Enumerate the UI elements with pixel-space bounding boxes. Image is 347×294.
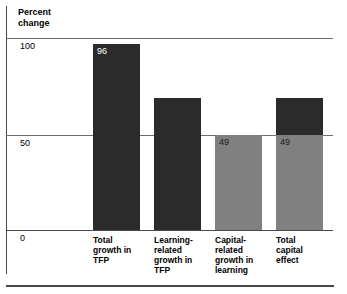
y-axis-title-line2: change bbox=[18, 18, 50, 28]
y-axis-title-line1: Percent bbox=[18, 7, 51, 17]
category-label-capital-related-growth-learning: Capital- related growth in learning bbox=[215, 235, 271, 275]
plot-area: 100 50 0 96 49 bbox=[6, 30, 334, 235]
bar-value-label: 96 bbox=[97, 46, 107, 56]
category-label-total-growth-tfp: Total growth in TFP bbox=[93, 235, 149, 265]
chart-figure: Percentchange 100 50 0 96 49 bbox=[0, 0, 347, 294]
bar-total-growth-tfp[interactable]: 96 bbox=[93, 44, 140, 230]
bar-learning-related-growth-tfp[interactable] bbox=[154, 98, 201, 230]
y-axis-title: Percentchange bbox=[18, 7, 51, 29]
figure-bottom-rule bbox=[6, 285, 334, 287]
bar-value-label: 49 bbox=[280, 137, 290, 147]
bar-segment-dark bbox=[154, 98, 201, 230]
bar-segment-dark bbox=[276, 98, 323, 135]
bar-segment-gray: 49 bbox=[215, 135, 262, 230]
bar-value-label: 49 bbox=[219, 137, 229, 147]
bars-layer: 96 49 49 bbox=[6, 30, 334, 235]
bar-segment-gray: 49 bbox=[276, 135, 323, 230]
category-label-learning-related-growth-tfp: Learning- related growth in TFP bbox=[154, 235, 210, 275]
category-label-total-capital-effect: Total capital effect bbox=[276, 235, 332, 265]
bar-capital-related-growth-learning[interactable]: 49 bbox=[215, 135, 262, 230]
bar-segment-dark: 96 bbox=[93, 44, 140, 230]
bar-total-capital-effect[interactable]: 49 bbox=[276, 98, 323, 230]
